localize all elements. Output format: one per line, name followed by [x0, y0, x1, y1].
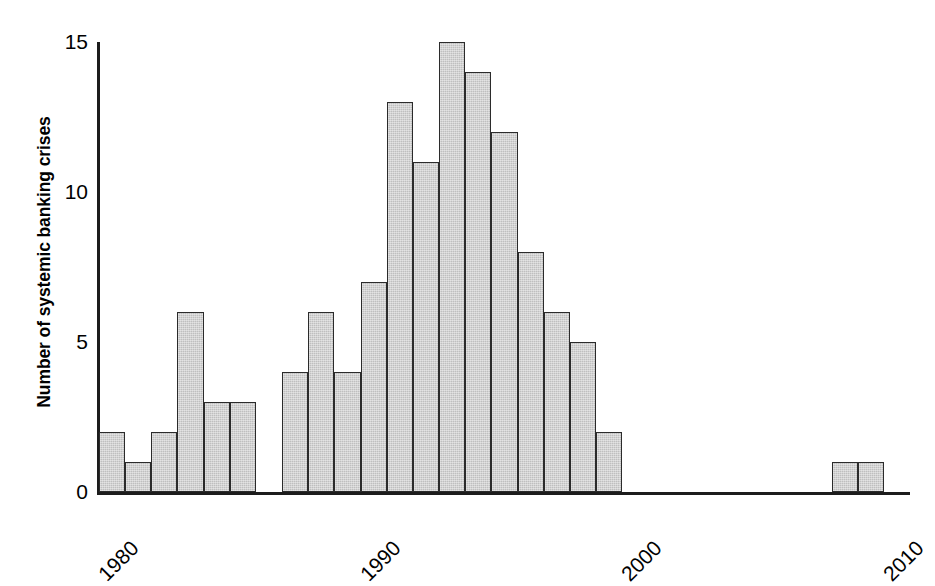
bar [230, 402, 256, 492]
bar [832, 462, 858, 492]
x-axis-line [97, 492, 910, 495]
bar [308, 312, 334, 492]
bar [596, 432, 622, 492]
bar [151, 432, 177, 492]
bar [204, 402, 230, 492]
bar [387, 102, 413, 492]
bar [858, 462, 884, 492]
bar [465, 72, 491, 492]
y-axis-title: Number of systemic banking crises [24, 12, 64, 512]
bar [544, 312, 570, 492]
x-tick-label: 1980 [94, 536, 144, 586]
bar [99, 432, 125, 492]
bar [282, 372, 308, 492]
y-tick-label: 5 [76, 330, 88, 354]
bar [439, 42, 465, 492]
x-tick-label: 2010 [878, 536, 928, 586]
bar [125, 462, 151, 492]
bar [570, 342, 596, 492]
bar [334, 372, 360, 492]
y-tick-label: 0 [76, 480, 88, 504]
x-tick-label: 1990 [355, 536, 405, 586]
bar [413, 162, 439, 492]
bar [361, 282, 387, 492]
y-tick-label: 10 [65, 180, 88, 204]
bar [491, 132, 517, 492]
y-axis-line [97, 42, 100, 493]
bar [177, 312, 203, 492]
x-tick-label: 2000 [617, 536, 667, 586]
plot-area: 051015 [99, 42, 910, 492]
bar [518, 252, 544, 492]
y-tick-label: 15 [65, 30, 88, 54]
